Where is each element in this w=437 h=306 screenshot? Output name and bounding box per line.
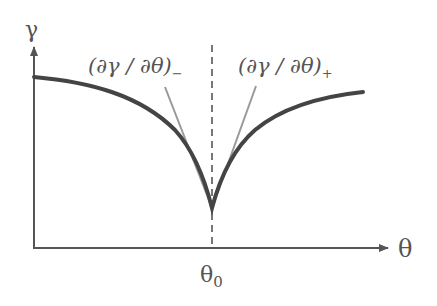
left-tangent-subscript: −	[172, 66, 183, 81]
y-axis-label: γ	[25, 17, 38, 42]
theta0-subscript: 0	[213, 273, 223, 291]
right-tangent-label: (∂γ / ∂θ)+	[238, 54, 333, 81]
theta0-symbol: θ	[200, 262, 213, 287]
x-axis-label: θ	[398, 235, 412, 263]
left-tangent-text: (∂γ / ∂θ)	[88, 54, 172, 78]
gamma-curve	[34, 77, 363, 208]
gamma-theta-diagram: γ θ θ0 (∂γ / ∂θ)− (∂γ / ∂θ)+	[0, 0, 437, 306]
right-tangent-subscript: +	[322, 66, 333, 81]
left-tangent-label: (∂γ / ∂θ)−	[88, 54, 183, 81]
right-tangent-text: (∂γ / ∂θ)	[238, 54, 322, 78]
theta0-label: θ0	[200, 262, 223, 291]
